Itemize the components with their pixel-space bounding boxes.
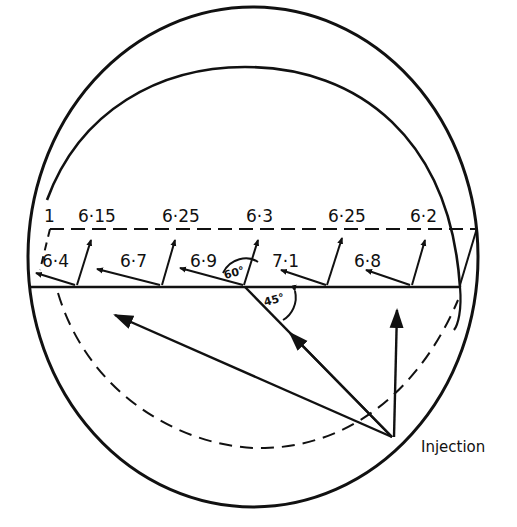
right-connector	[460, 228, 477, 285]
top-label-4: 6·3	[246, 206, 273, 226]
bottom-label-4: 7·1	[272, 251, 299, 271]
top-label-2: 6·15	[78, 206, 116, 226]
angle-arc-45	[283, 291, 296, 320]
bottom-label-3: 6·9	[190, 251, 217, 271]
injection-label: Injection	[421, 438, 485, 456]
injection-flow-diagram: 1 6·15 6·25 6·3 6·25 6·2 6·4 6·7 6·9 7·1…	[0, 0, 517, 527]
bottom-label-5: 6·8	[354, 251, 381, 271]
top-label-6: 6·2	[410, 206, 437, 226]
bottom-label-1: 6·4	[42, 251, 69, 271]
injection-jets	[115, 287, 397, 437]
top-label-5: 6·25	[328, 206, 366, 226]
bottom-label-2: 6·7	[120, 251, 147, 271]
top-label-3: 6·25	[162, 206, 200, 226]
angle-label-45: 45°	[262, 291, 285, 309]
top-label-1: 1	[44, 206, 55, 226]
